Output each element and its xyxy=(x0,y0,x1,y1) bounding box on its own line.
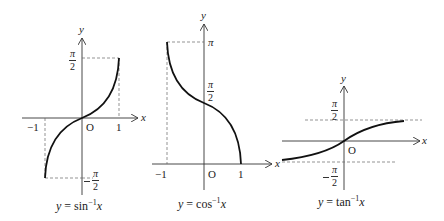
tick-one: 1 xyxy=(116,122,122,133)
graphs-canvas xyxy=(0,0,444,221)
guide-lines xyxy=(167,42,204,164)
arctan-curve xyxy=(282,121,404,160)
y-axis-label: y xyxy=(201,10,206,21)
y-axis-label: y xyxy=(79,24,84,35)
y-bottom-neg-pi-over-2: π2 xyxy=(84,169,99,192)
y-top-pi-over-2: π2 xyxy=(331,99,338,122)
tick-one: 1 xyxy=(238,169,244,180)
y-top-pi-over-2: π2 xyxy=(69,49,76,72)
tick-neg-one: −1 xyxy=(155,169,167,180)
arccos-graph xyxy=(152,24,272,190)
tick-neg-one: −1 xyxy=(27,122,39,133)
origin-label: O xyxy=(208,169,216,180)
x-axis-label: x xyxy=(275,158,280,169)
y-mid-pi-over-2: π2 xyxy=(207,80,214,103)
arcsin-graph xyxy=(22,38,138,195)
caption-arccos: y = cos−1x xyxy=(178,196,226,212)
x-axis-label: x xyxy=(141,112,146,123)
arctan-graph xyxy=(282,86,422,190)
origin-label: O xyxy=(86,122,94,133)
caption-arcsin: y = sin−1x xyxy=(56,198,102,214)
origin-label: O xyxy=(348,145,356,156)
y-axis-label: y xyxy=(341,73,346,84)
y-top-pi: π xyxy=(208,37,214,48)
y-bottom-neg-pi-over-2: π2 xyxy=(323,165,338,188)
caption-arctan: y = tan−1x xyxy=(318,194,365,210)
x-axis-label: x xyxy=(422,135,427,146)
